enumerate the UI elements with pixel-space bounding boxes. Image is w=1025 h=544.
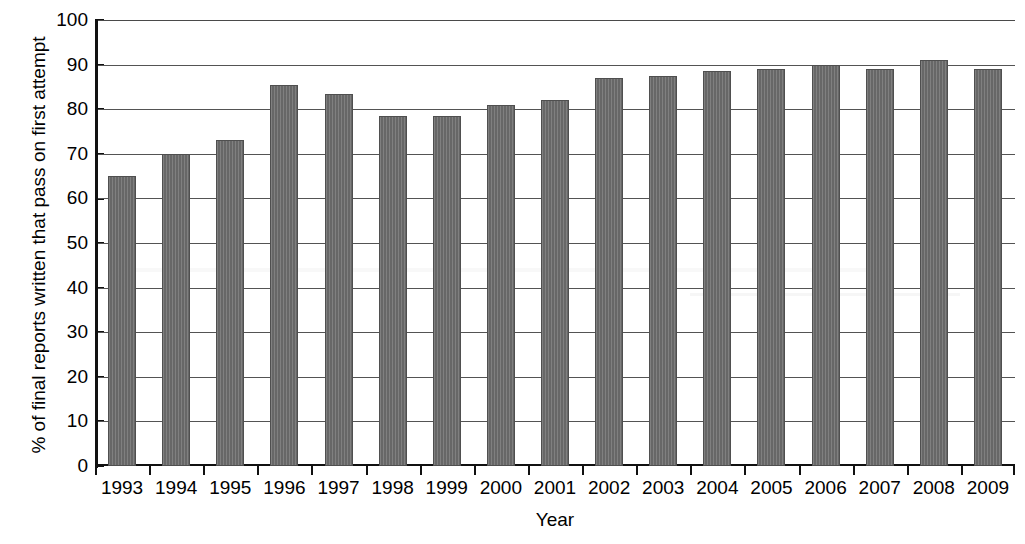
bar-1994[interactable] [162, 154, 190, 466]
x-tick-label-2000: 2000 [480, 476, 522, 500]
x-tick-label-1996: 1996 [263, 476, 305, 500]
x-tick-mark [366, 466, 368, 475]
x-tick-label-2002: 2002 [588, 476, 630, 500]
bar-1998[interactable] [379, 116, 407, 466]
x-tick-label-2006: 2006 [804, 476, 846, 500]
y-tick-label-100: 100 [44, 10, 88, 29]
y-axis-tick-labels: 100 90 80 70 60 50 40 30 20 10 0 [34, 20, 88, 466]
bar-slot [636, 20, 690, 466]
x-tick-mark [1013, 466, 1015, 475]
x-tick-label-1994: 1994 [155, 476, 197, 500]
y-tick-label-20: 20 [44, 367, 88, 386]
x-tick-mark [961, 466, 963, 475]
x-tick-label-1995: 1995 [209, 476, 251, 500]
bar-2005[interactable] [757, 69, 785, 466]
bar-1996[interactable] [270, 85, 298, 466]
bar-2002[interactable] [595, 78, 623, 466]
bar-2003[interactable] [649, 76, 677, 466]
bar-slot [582, 20, 636, 466]
bar-1995[interactable] [216, 140, 244, 466]
x-tick-mark [582, 466, 584, 475]
bar-2007[interactable] [866, 69, 894, 466]
bar-2004[interactable] [703, 71, 731, 466]
x-tick-mark [799, 466, 801, 475]
x-tick-label-2009: 2009 [967, 476, 1009, 500]
bars-layer [95, 20, 1015, 466]
x-tick-label-2004: 2004 [696, 476, 738, 500]
x-tick-mark [257, 466, 259, 475]
x-tick-mark [907, 466, 909, 475]
y-tick-label-30: 30 [44, 322, 88, 341]
bar-slot [203, 20, 257, 466]
x-tick-mark [690, 466, 692, 475]
bar-slot [907, 20, 961, 466]
x-tick-label-2001: 2001 [534, 476, 576, 500]
bar-slot [528, 20, 582, 466]
x-tick-mark [203, 466, 205, 475]
bar-2006[interactable] [812, 65, 840, 466]
x-tick-mark [420, 466, 422, 475]
x-axis-tick-marks [95, 466, 1015, 476]
x-axis-title: Year [95, 508, 1015, 532]
y-tick-label-80: 80 [44, 99, 88, 118]
bar-slot [799, 20, 853, 466]
x-tick-mark [95, 466, 97, 475]
bar-chart: % of final reports written that pass on … [0, 0, 1025, 544]
x-tick-label-2007: 2007 [859, 476, 901, 500]
y-tick-label-70: 70 [44, 144, 88, 163]
bar-slot [420, 20, 474, 466]
x-tick-mark [474, 466, 476, 475]
x-tick-label-1997: 1997 [317, 476, 359, 500]
x-tick-label-2008: 2008 [913, 476, 955, 500]
bar-1993[interactable] [108, 176, 136, 466]
bar-2000[interactable] [487, 105, 515, 466]
bar-slot [149, 20, 203, 466]
x-tick-mark [744, 466, 746, 475]
bar-slot [690, 20, 744, 466]
y-tick-label-50: 50 [44, 233, 88, 252]
bar-1997[interactable] [325, 94, 353, 466]
bar-slot [95, 20, 149, 466]
x-tick-mark [853, 466, 855, 475]
chart-title [0, 0, 1025, 4]
x-tick-label-2003: 2003 [642, 476, 684, 500]
x-axis-tick-labels: 1993199419951996199719981999200020012002… [95, 476, 1015, 502]
y-tick-label-10: 10 [44, 411, 88, 430]
x-tick-mark [636, 466, 638, 475]
bar-slot [961, 20, 1015, 466]
x-tick-mark [149, 466, 151, 475]
y-tick-label-90: 90 [44, 55, 88, 74]
bar-2008[interactable] [920, 60, 948, 466]
bar-1999[interactable] [433, 116, 461, 466]
bar-slot [744, 20, 798, 466]
bar-2001[interactable] [541, 100, 569, 466]
bar-slot [311, 20, 365, 466]
bar-slot [257, 20, 311, 466]
bar-slot [853, 20, 907, 466]
x-tick-label-1999: 1999 [426, 476, 468, 500]
bar-slot [366, 20, 420, 466]
x-tick-label-2005: 2005 [750, 476, 792, 500]
bar-2009[interactable] [974, 69, 1002, 466]
bar-slot [474, 20, 528, 466]
x-tick-mark [311, 466, 313, 475]
x-tick-label-1993: 1993 [101, 476, 143, 500]
y-tick-label-60: 60 [44, 188, 88, 207]
x-tick-mark [528, 466, 530, 475]
y-tick-label-40: 40 [44, 278, 88, 297]
x-tick-label-1998: 1998 [372, 476, 414, 500]
y-tick-label-0: 0 [44, 456, 88, 475]
